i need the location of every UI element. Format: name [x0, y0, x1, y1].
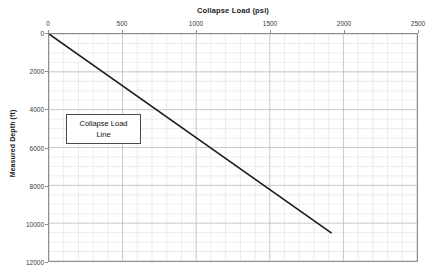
chart-title: Collapse Load (psi) [48, 6, 418, 15]
y-tick-mark [45, 186, 48, 187]
y-tick-label: 8000 [16, 182, 44, 189]
x-tick-label: 1500 [263, 20, 277, 27]
grid-and-series-svg [49, 34, 417, 261]
y-tick-mark [45, 71, 48, 72]
y-tick-mark [45, 224, 48, 225]
collapse-load-line-annotation: Collapse Load Line [66, 114, 141, 144]
x-tick-label: 500 [117, 20, 128, 27]
y-tick-mark [45, 148, 48, 149]
y-tick-mark [45, 262, 48, 263]
y-tick-label: 6000 [16, 144, 44, 151]
y-tick-mark [45, 33, 48, 34]
y-tick-label: 0 [16, 30, 44, 37]
plot-area [48, 33, 418, 262]
x-tick-label: 1000 [189, 20, 203, 27]
x-tick-mark [270, 30, 271, 33]
collapse-load-chart: Collapse Load (psi) Measured Depth (ft) … [0, 0, 443, 279]
x-tick-mark [418, 30, 419, 33]
x-tick-label: 2000 [337, 20, 351, 27]
x-tick-mark [344, 30, 345, 33]
x-tick-mark [48, 30, 49, 33]
y-tick-label: 12000 [16, 259, 44, 266]
y-tick-label: 2000 [16, 68, 44, 75]
y-tick-mark [45, 109, 48, 110]
y-tick-label: 4000 [16, 106, 44, 113]
x-tick-label: 2500 [411, 20, 425, 27]
y-axis-title: Measured Depth (ft) [9, 84, 16, 204]
x-tick-mark [196, 30, 197, 33]
x-tick-mark [122, 30, 123, 33]
major-gridlines [49, 34, 417, 261]
x-tick-label: 0 [46, 20, 50, 27]
y-tick-label: 10000 [16, 220, 44, 227]
